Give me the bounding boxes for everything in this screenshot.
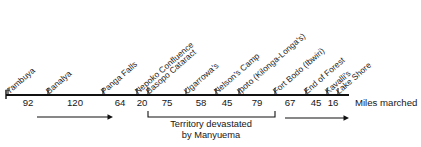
segment-value: 92 [23, 98, 34, 108]
bracket-caption: Territory devastated by Manyuema [170, 119, 252, 141]
segment-value: 79 [252, 98, 263, 108]
segment-value: 16 [328, 98, 339, 108]
segment-value: 64 [115, 98, 126, 108]
segment-value: 75 [162, 98, 173, 108]
segment-value: 67 [285, 98, 296, 108]
segment-value: 120 [67, 98, 83, 108]
bracket-caption-line-2: by Manyuema [182, 130, 240, 140]
segment-value: 45 [222, 98, 233, 108]
axis-caption: Miles marched [355, 98, 417, 108]
miles-marched-timeline: YambuyaBanalyaPanga FallsNepoko Confluen… [0, 0, 421, 147]
bracket-caption-line-1: Territory devastated [170, 119, 252, 129]
devastated-territory-bracket [148, 111, 275, 117]
segment-value: 20 [137, 98, 148, 108]
segment-value: 45 [311, 98, 322, 108]
segment-value: 58 [196, 98, 207, 108]
advance-arrow-left [37, 114, 113, 120]
distance-axis [6, 90, 349, 99]
advance-arrow-right [285, 115, 349, 121]
